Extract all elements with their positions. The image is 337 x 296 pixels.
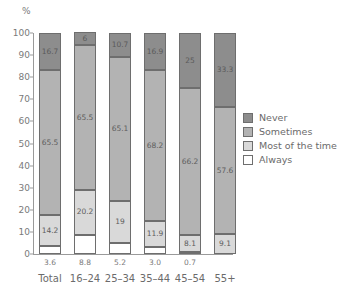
- below-axis-value: 5.2: [100, 258, 140, 267]
- segment-value-label: 65.5: [42, 139, 59, 147]
- bar-column-55[interactable]: 9.157.633.3: [214, 33, 236, 254]
- y-tick-80: 80: [6, 72, 30, 82]
- y-tick-60: 60: [6, 116, 30, 126]
- segment-value-label: 9.1: [219, 240, 231, 248]
- bar-segment-never[interactable]: 6: [74, 32, 96, 45]
- bar-segment-most[interactable]: 8.1: [179, 235, 201, 253]
- bar-column-3544[interactable]: 11.968.216.9: [144, 33, 166, 254]
- legend-swatch-icon: [243, 141, 253, 151]
- segment-value-label: 16.7: [42, 48, 59, 56]
- category-label-55: 55+: [202, 273, 248, 284]
- below-axis-value: 0.7: [170, 258, 210, 267]
- segment-value-label: 25: [185, 57, 195, 65]
- bar-column-2534[interactable]: 1965.110.7: [109, 33, 131, 254]
- segment-value-label: 14.2: [42, 227, 59, 235]
- legend-swatch-icon: [243, 155, 253, 165]
- segment-value-label: 16.9: [147, 48, 164, 56]
- bar-segment-sometimes[interactable]: 65.1: [109, 57, 131, 201]
- bar-segment-never[interactable]: 10.7: [109, 33, 131, 57]
- segment-value-label: 20.2: [77, 208, 94, 216]
- segment-value-label: 11.9: [147, 230, 164, 238]
- y-tick-70: 70: [6, 94, 30, 104]
- bar-segment-sometimes[interactable]: 65.5: [74, 45, 96, 190]
- bar-column-4554[interactable]: 8.166.225: [179, 33, 201, 254]
- below-axis-value: 3.0: [135, 258, 175, 267]
- bar-segment-sometimes[interactable]: 68.2: [144, 70, 166, 221]
- y-tick-50: 50: [6, 139, 30, 149]
- segment-value-label: 19: [115, 218, 125, 226]
- bar-segment-most[interactable]: 9.1: [214, 234, 236, 254]
- segment-value-label: 57.6: [217, 167, 234, 175]
- bar-segment-most[interactable]: 20.2: [74, 190, 96, 235]
- segment-value-label: 65.1: [112, 125, 129, 133]
- bar-segment-never[interactable]: 16.9: [144, 33, 166, 70]
- y-tick-20: 20: [6, 205, 30, 215]
- y-tick-10: 10: [6, 227, 30, 237]
- segment-value-label: 8.1: [184, 240, 196, 248]
- bar-segment-most[interactable]: 14.2: [39, 215, 61, 246]
- y-tick-100: 100: [6, 28, 30, 38]
- x-axis-line: [33, 254, 233, 255]
- legend-item-always[interactable]: Always: [243, 154, 337, 165]
- legend-label: Always: [259, 154, 292, 165]
- bar-column-1624[interactable]: 20.265.56: [74, 33, 96, 254]
- y-tick-0: 0: [6, 249, 30, 259]
- bar-segment-most[interactable]: 11.9: [144, 221, 166, 247]
- y-tick-90: 90: [6, 50, 30, 60]
- segment-value-label: 68.2: [147, 142, 164, 150]
- bar-segment-always[interactable]: [39, 246, 61, 254]
- bar-segment-sometimes[interactable]: 57.6: [214, 107, 236, 234]
- bar-segment-sometimes[interactable]: 65.5: [39, 70, 61, 215]
- legend-swatch-icon: [243, 113, 253, 123]
- bar-segment-never[interactable]: 16.7: [39, 33, 61, 70]
- legend-item-never[interactable]: Never: [243, 112, 337, 123]
- legend-item-sometimes[interactable]: Sometimes: [243, 126, 337, 137]
- plot-area: 14.265.516.720.265.561965.110.711.968.21…: [34, 33, 233, 254]
- legend-label: Sometimes: [259, 126, 312, 137]
- bar-segment-never[interactable]: 25: [179, 33, 201, 88]
- segment-value-label: 33.3: [217, 66, 234, 74]
- segment-value-label: 10.7: [112, 41, 129, 49]
- below-axis-value: 8.8: [65, 258, 105, 267]
- segment-value-label: 6: [83, 35, 88, 43]
- y-tick-40: 40: [6, 161, 30, 171]
- bar-segment-sometimes[interactable]: 66.2: [179, 88, 201, 234]
- legend-label: Most of the time: [259, 140, 337, 151]
- bar-segment-always[interactable]: [144, 247, 166, 254]
- bar-segment-never[interactable]: 33.3: [214, 33, 236, 107]
- segment-value-label: 65.5: [77, 114, 94, 122]
- chart-legend: NeverSometimesMost of the timeAlways: [243, 112, 337, 168]
- legend-swatch-icon: [243, 127, 253, 137]
- y-tick-30: 30: [6, 183, 30, 193]
- legend-label: Never: [259, 112, 287, 123]
- bar-segment-always[interactable]: [74, 235, 96, 254]
- bar-segment-always[interactable]: [109, 243, 131, 254]
- segment-value-label: 66.2: [182, 158, 199, 166]
- bar-segment-most[interactable]: 19: [109, 201, 131, 243]
- y-axis-tick-labels: 0102030405060708090100: [4, 0, 30, 296]
- below-axis-value: 3.6: [30, 258, 70, 267]
- legend-item-most-of-the-time[interactable]: Most of the time: [243, 140, 337, 151]
- bar-column-Total[interactable]: 14.265.516.7: [39, 33, 61, 254]
